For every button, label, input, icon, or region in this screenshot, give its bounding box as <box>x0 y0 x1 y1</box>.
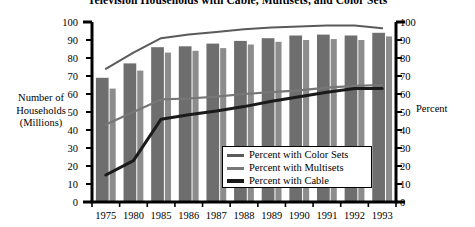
bar-main <box>179 46 192 202</box>
bar-secondary <box>193 51 199 202</box>
bar-main <box>124 63 137 202</box>
chart-legend: Percent with Color SetsPercent with Mult… <box>222 146 372 188</box>
bar-secondary <box>110 89 116 202</box>
x-tick-label: 1989 <box>261 210 282 221</box>
bar-secondary <box>137 71 143 202</box>
x-tick-label: 1985 <box>151 210 172 221</box>
legend-swatch-icon <box>227 167 244 170</box>
bar-main <box>96 78 109 202</box>
legend-item[interactable]: Percent with Multisets <box>227 162 367 174</box>
bar-secondary <box>386 36 392 202</box>
x-tick-label: 1986 <box>178 210 199 221</box>
legend-item-label: Percent with Multisets <box>249 162 344 174</box>
legend-swatch-icon <box>227 179 244 183</box>
bar-secondary <box>165 53 171 202</box>
x-tick-label: 1992 <box>344 210 365 221</box>
x-tick-label: 1988 <box>234 210 255 221</box>
x-tick-label: 1987 <box>206 210 227 221</box>
legend-item[interactable]: Percent with Cable <box>227 175 367 187</box>
x-tick-label: 1993 <box>372 210 393 221</box>
legend-item-label: Percent with Cable <box>249 175 329 187</box>
legend-swatch-icon <box>227 154 244 157</box>
legend-item-label: Percent with Color Sets <box>249 149 348 161</box>
chart-figure: Television Households with Cable, Multis… <box>0 0 475 227</box>
plot-area: 1975198019851986198719881989199019911992… <box>0 0 475 227</box>
x-tick-label: 1991 <box>316 210 337 221</box>
bar-main <box>372 33 385 202</box>
bar-main <box>206 44 219 202</box>
x-tick-label: 1975 <box>95 210 116 221</box>
legend-item[interactable]: Percent with Color Sets <box>227 149 367 161</box>
x-tick-label: 1990 <box>289 210 310 221</box>
x-tick-label: 1980 <box>123 210 144 221</box>
